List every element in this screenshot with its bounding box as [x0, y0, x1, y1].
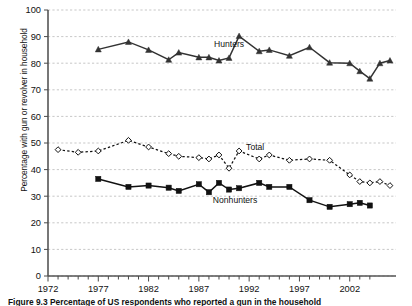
annotation-nonhunters: Nonhunters	[213, 195, 257, 205]
y-axis-ticks: 0102030405060708090100	[25, 5, 48, 281]
caption-label: Figure 9.3	[8, 298, 48, 306]
svg-text:90: 90	[31, 32, 41, 42]
svg-text:1972: 1972	[38, 284, 59, 294]
svg-text:70: 70	[31, 85, 41, 95]
series-hunters	[95, 33, 393, 81]
svg-text:20: 20	[31, 218, 41, 228]
line-chart: 0102030405060708090100 19721977198219871…	[0, 0, 412, 296]
annotation-hunters: Hunters	[214, 39, 244, 49]
figure-container: Percentage with gun or revolver in house…	[0, 0, 412, 306]
svg-text:80: 80	[31, 59, 41, 69]
annotation-total: Total	[246, 142, 264, 152]
svg-text:40: 40	[31, 165, 41, 175]
plot-area: 0102030405060708090100 19721977198219871…	[0, 0, 412, 306]
svg-text:50: 50	[31, 138, 41, 148]
series-annotations: HuntersTotalNonhunters	[213, 39, 264, 205]
figure-caption: Figure 9.3 Percentage of US respondents …	[8, 298, 408, 306]
caption-text: Percentage of US respondents who reporte…	[50, 298, 321, 306]
svg-text:10: 10	[31, 245, 41, 255]
svg-text:60: 60	[31, 112, 41, 122]
svg-text:1997: 1997	[289, 284, 310, 294]
x-axis-ticks: 1972197719821987199219972002	[38, 276, 370, 294]
svg-text:1977: 1977	[88, 284, 109, 294]
svg-text:100: 100	[25, 5, 41, 15]
svg-text:30: 30	[31, 192, 41, 202]
svg-text:1987: 1987	[189, 284, 210, 294]
svg-text:2002: 2002	[339, 284, 360, 294]
svg-text:1982: 1982	[138, 284, 159, 294]
svg-text:1992: 1992	[239, 284, 260, 294]
svg-text:0: 0	[36, 271, 41, 281]
data-series	[55, 33, 393, 209]
